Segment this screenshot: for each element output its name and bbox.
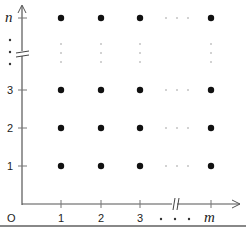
y-axis-ellipsis: [9, 39, 11, 65]
y-tick-label-2: 2: [7, 122, 13, 134]
horizontal-ellipsis-dots: [165, 17, 189, 167]
x-tick-label-2: 2: [98, 212, 104, 224]
x-axis-ellipsis: [160, 218, 190, 220]
lattice-points: [58, 15, 214, 169]
lattice-diagram: 1 2 3 n O 1 2 3 m: [0, 0, 246, 229]
x-axis-break-marker: [172, 198, 179, 210]
y-tick-label-1: 1: [7, 160, 13, 172]
x-tick-label-3: 3: [137, 212, 143, 224]
y-axis-break-marker: [16, 51, 29, 57]
vertical-ellipsis-dots: [60, 43, 212, 63]
origin-label: O: [7, 212, 16, 224]
y-tick-label-n: n: [5, 9, 13, 25]
x-tick-label-1: 1: [58, 212, 64, 224]
y-tick-label-3: 3: [7, 84, 13, 96]
x-tick-label-m: m: [204, 209, 215, 225]
